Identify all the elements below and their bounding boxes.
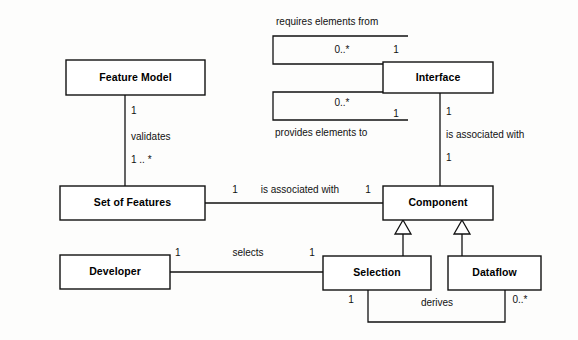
generalization-selection-to-component xyxy=(395,220,411,256)
class-box-component[interactable]: Component xyxy=(383,186,493,220)
mult-provides-zero-star: 0..* xyxy=(334,97,349,108)
feature-model-label: Feature Model xyxy=(99,71,171,83)
mult-requires-one: 1 xyxy=(393,44,399,55)
class-box-interface[interactable]: Interface xyxy=(383,62,493,93)
mult-selection-one: 1 xyxy=(309,247,315,258)
selection-label: Selection xyxy=(353,266,401,278)
uml-class-diagram: Feature Model Set of Features Developer … xyxy=(0,0,578,340)
class-box-selection[interactable]: Selection xyxy=(323,256,431,290)
mult-sof-assoc-one: 1 xyxy=(232,184,238,195)
label-validates: validates xyxy=(131,131,170,142)
dataflow-gen-triangle xyxy=(454,220,470,234)
mult-interface-one: 1 xyxy=(446,106,452,117)
diagram-canvas: Feature Model Set of Features Developer … xyxy=(0,0,578,340)
component-label: Component xyxy=(408,196,468,208)
label-derives: derives xyxy=(421,297,453,308)
label-requires-elements-from: requires elements from xyxy=(276,16,378,27)
mult-component-one: 1 xyxy=(446,152,452,163)
class-box-dataflow[interactable]: Dataflow xyxy=(448,256,541,290)
mult-comp-assoc-one: 1 xyxy=(365,184,371,195)
label-selects: selects xyxy=(232,247,263,258)
set-of-features-label: Set of Features xyxy=(94,196,171,208)
class-box-feature-model[interactable]: Feature Model xyxy=(66,60,205,95)
mult-provides-one: 1 xyxy=(393,108,399,119)
selection-gen-triangle xyxy=(395,220,411,234)
generalization-dataflow-to-component xyxy=(454,220,470,256)
mult-requires-zero-star: 0..* xyxy=(334,44,349,55)
label-provides-elements-to: provides elements to xyxy=(275,127,368,138)
mult-developer-one: 1 xyxy=(175,247,181,258)
interface-label: Interface xyxy=(416,71,461,83)
mult-selection-derives-one: 1 xyxy=(348,294,354,305)
label-is-associated-with-mid: is associated with xyxy=(261,184,339,195)
class-box-developer[interactable]: Developer xyxy=(60,255,170,289)
mult-dataflow-zero-star: 0..* xyxy=(512,294,527,305)
dataflow-label: Dataflow xyxy=(472,266,517,278)
label-is-associated-with-right: is associated with xyxy=(446,129,524,140)
mult-set-of-features-one-star: 1 .. * xyxy=(131,154,152,165)
developer-label: Developer xyxy=(89,265,141,277)
class-box-set-of-features[interactable]: Set of Features xyxy=(60,186,205,220)
mult-feature-model-one: 1 xyxy=(131,105,137,116)
